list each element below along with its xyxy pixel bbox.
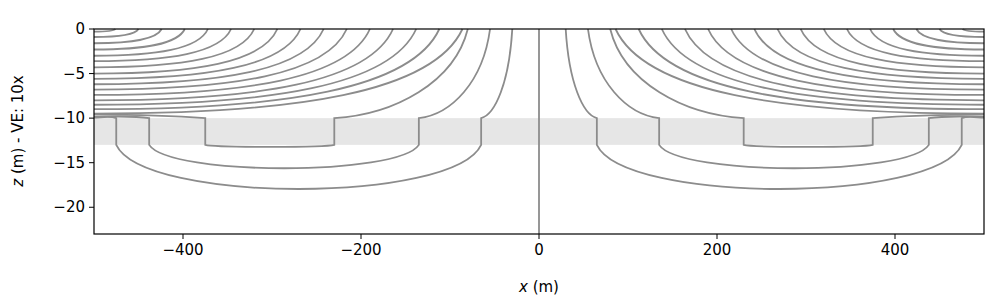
x-tick-label: −200 bbox=[340, 241, 381, 259]
streamline bbox=[94, 29, 300, 79]
x-tick-label: 400 bbox=[881, 241, 910, 259]
streamline bbox=[778, 29, 984, 79]
y-axis-ticks: 0−5−10−15−20 bbox=[53, 20, 94, 216]
y-tick-label: −5 bbox=[63, 65, 85, 83]
x-axis-ticks: −400−2000200400 bbox=[162, 234, 909, 259]
x-tick-label: 0 bbox=[534, 241, 544, 259]
streamline bbox=[639, 29, 984, 109]
y-axis-label: z (m) - VE: 10x bbox=[9, 75, 27, 188]
streamline bbox=[94, 29, 347, 90]
y-tick-label: 0 bbox=[75, 20, 85, 38]
streamline bbox=[94, 29, 439, 109]
streamline-chart: −400−2000200400 0−5−10−15−20 x (m) z (m)… bbox=[0, 0, 1006, 301]
y-tick-label: −10 bbox=[53, 109, 85, 127]
streamline bbox=[94, 29, 139, 37]
streamline bbox=[940, 29, 985, 37]
x-axis-label: x (m) bbox=[518, 278, 559, 296]
y-tick-label: −20 bbox=[53, 198, 85, 216]
x-tick-label: 200 bbox=[703, 241, 732, 259]
x-tick-label: −400 bbox=[162, 241, 203, 259]
plot-area bbox=[94, 29, 984, 234]
y-tick-label: −15 bbox=[53, 154, 85, 172]
streamline bbox=[731, 29, 984, 90]
